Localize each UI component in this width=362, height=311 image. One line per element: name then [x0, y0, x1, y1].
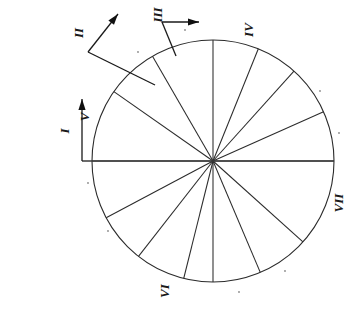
speck-2: [319, 90, 321, 92]
figure-root: IIIIII IVVVIIVI: [0, 0, 362, 311]
label-iv-top-right: IV: [241, 22, 256, 38]
speck-5: [107, 230, 109, 232]
arrow-ii-label: II: [71, 27, 86, 39]
speck-7: [238, 291, 240, 293]
speck-4: [87, 182, 89, 184]
speck-6: [284, 270, 286, 272]
speck-0: [137, 51, 139, 53]
label-vii-right: VII: [331, 193, 346, 213]
label-vi-bottom: VI: [157, 283, 172, 298]
label-v-upper-left: V: [77, 111, 92, 121]
arrow-iii-label: III: [150, 6, 165, 23]
speck-1: [184, 29, 186, 31]
figure-background: [0, 0, 362, 311]
radial-sector-diagram: IIIIII IVVVIIVI: [0, 0, 362, 311]
arrow-i-label: I: [57, 128, 72, 135]
speck-3: [338, 132, 340, 134]
